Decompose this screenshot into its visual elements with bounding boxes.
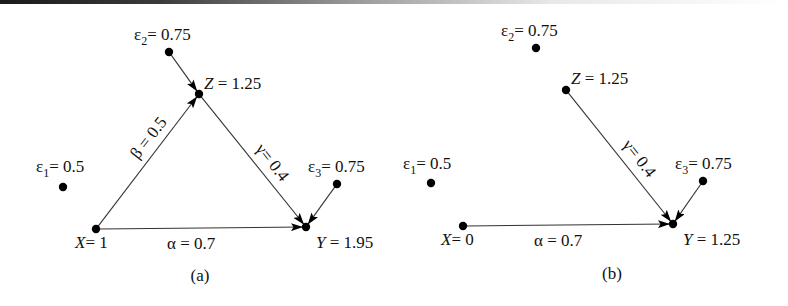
node-e2-dot	[165, 48, 173, 56]
node-Y-label: Y = 1.25	[683, 230, 740, 249]
node-e1-label: ε1= 0.5	[36, 157, 84, 180]
panel-caption: (a)	[191, 266, 210, 285]
node-e3-dot	[699, 177, 707, 185]
edge-label-Z-Y: γ= 0.4	[251, 139, 293, 185]
edge-e3-to-Y	[308, 186, 335, 224]
node-Z-dot	[195, 90, 203, 98]
edge-X-to-Z	[98, 97, 197, 227]
node-e1-dot	[427, 179, 435, 187]
edge-Z-to-Y	[568, 92, 671, 221]
causal-diagram: β = 0.5γ= 0.4α = 0.7ε2= 0.75Z = 1.25ε1= …	[0, 0, 788, 306]
node-Y-dot	[669, 220, 677, 228]
edge-label-Z-Y: γ= 0.4	[618, 135, 660, 181]
edge-label-X-Y: α = 0.7	[534, 231, 583, 250]
node-e2-label: ε2= 0.75	[501, 21, 558, 44]
edge-Z-to-Y	[201, 96, 304, 224]
panel-a: β = 0.5γ= 0.4α = 0.7ε2= 0.75Z = 1.25ε1= …	[36, 25, 373, 285]
node-Z-label: Z = 1.25	[204, 74, 261, 93]
node-e1-dot	[59, 183, 67, 191]
node-X-dot	[459, 222, 467, 230]
node-e3-dot	[333, 180, 341, 188]
node-X-label: X= 0	[440, 230, 474, 249]
panel-b: γ= 0.4α = 0.7ε2= 0.75Z = 1.25ε1= 0.5X= 0…	[403, 21, 740, 283]
node-Z-dot	[562, 86, 570, 94]
node-e2-dot	[532, 44, 540, 52]
node-e2-label: ε2= 0.75	[134, 25, 191, 48]
node-Y-dot	[302, 223, 310, 231]
edge-e2-to-Z	[171, 54, 197, 91]
edge-label-X-Z: β = 0.5	[126, 113, 171, 163]
edge-X-to-Y	[99, 227, 303, 229]
edge-X-to-Y	[466, 224, 670, 226]
node-Y-label: Y = 1.95	[316, 233, 373, 252]
node-e3-label: ε3= 0.75	[308, 157, 365, 180]
edge-e3-to-Y	[675, 183, 701, 221]
panel-caption: (b)	[602, 264, 622, 283]
node-e3-label: ε3= 0.75	[675, 154, 732, 177]
node-Z-label: Z = 1.25	[571, 69, 628, 88]
edge-label-X-Y: α = 0.7	[167, 234, 216, 253]
node-e1-label: ε1= 0.5	[403, 154, 451, 177]
node-X-label: X= 1	[74, 233, 108, 252]
node-X-dot	[92, 225, 100, 233]
